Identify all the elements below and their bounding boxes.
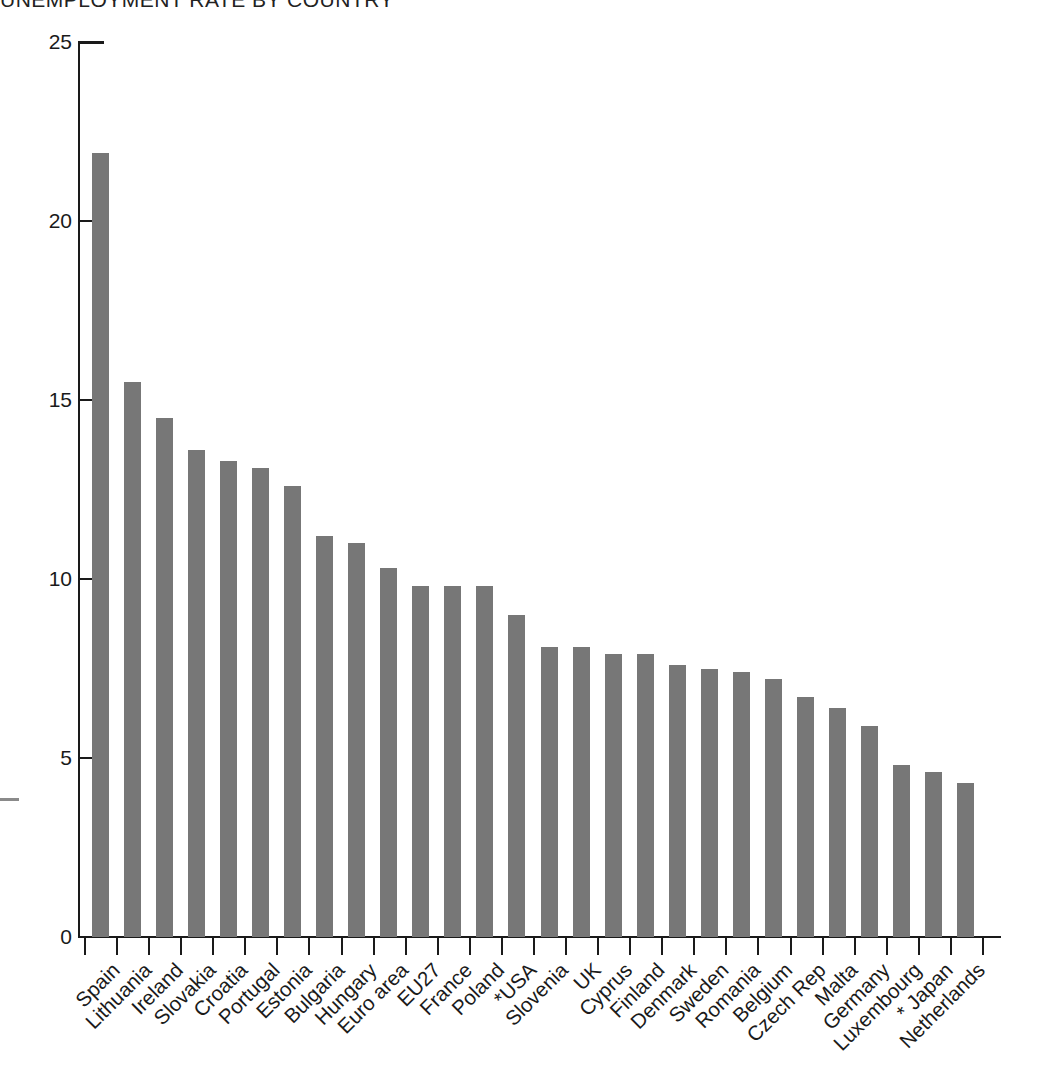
x-tick bbox=[469, 938, 471, 955]
bar bbox=[316, 536, 333, 937]
bar-chart: 0510152025 SpainLithuaniaIrelandSlovakia… bbox=[0, 0, 1046, 1090]
x-tick bbox=[244, 938, 246, 955]
x-tick bbox=[918, 938, 920, 955]
bar bbox=[669, 665, 686, 937]
x-tick bbox=[597, 938, 599, 955]
bar bbox=[829, 708, 846, 937]
bar bbox=[476, 586, 493, 937]
bar bbox=[893, 765, 910, 937]
y-tick-label-10: 10 bbox=[26, 568, 72, 589]
bar bbox=[605, 654, 622, 937]
x-tick bbox=[308, 938, 310, 955]
x-tick bbox=[950, 938, 952, 955]
x-tick bbox=[373, 938, 375, 955]
bar bbox=[156, 418, 173, 937]
x-tick bbox=[886, 938, 888, 955]
y-tick-label-20: 20 bbox=[26, 210, 72, 231]
bar bbox=[348, 543, 365, 937]
x-tick bbox=[84, 938, 86, 955]
x-tick bbox=[565, 938, 567, 955]
x-tick bbox=[501, 938, 503, 955]
x-tick bbox=[533, 938, 535, 955]
plot-area bbox=[78, 42, 1000, 937]
bar bbox=[412, 586, 429, 937]
bar bbox=[573, 647, 590, 937]
bar bbox=[925, 772, 942, 937]
x-tick bbox=[725, 938, 727, 955]
bar bbox=[508, 615, 525, 937]
bar bbox=[380, 568, 397, 937]
x-tick bbox=[757, 938, 759, 955]
bar bbox=[541, 647, 558, 937]
y-tick-label-5: 5 bbox=[26, 747, 72, 768]
bar bbox=[861, 726, 878, 937]
bar bbox=[957, 783, 974, 937]
x-tick bbox=[982, 938, 984, 955]
x-tick bbox=[437, 938, 439, 955]
x-tick bbox=[405, 938, 407, 955]
x-tick bbox=[116, 938, 118, 955]
y-tick-label-25: 25 bbox=[26, 31, 72, 52]
bar bbox=[220, 461, 237, 937]
bar bbox=[733, 672, 750, 937]
x-tick bbox=[212, 938, 214, 955]
bar bbox=[92, 153, 109, 937]
bar bbox=[284, 486, 301, 937]
x-tick bbox=[661, 938, 663, 955]
x-tick bbox=[854, 938, 856, 955]
y-tick-label-0: 0 bbox=[26, 926, 72, 947]
bar bbox=[444, 586, 461, 937]
x-tick bbox=[148, 938, 150, 955]
bar bbox=[252, 468, 269, 937]
x-tick bbox=[693, 938, 695, 955]
x-tick bbox=[790, 938, 792, 955]
x-tick bbox=[180, 938, 182, 955]
y-tick-label-15: 15 bbox=[26, 389, 72, 410]
x-tick bbox=[822, 938, 824, 955]
x-tick bbox=[629, 938, 631, 955]
bar bbox=[765, 679, 782, 937]
bar bbox=[188, 450, 205, 937]
x-tick bbox=[276, 938, 278, 955]
bar bbox=[637, 654, 654, 937]
bar-series bbox=[78, 42, 1000, 937]
bar bbox=[124, 382, 141, 937]
bar bbox=[797, 697, 814, 937]
x-tick bbox=[341, 938, 343, 955]
bar bbox=[701, 669, 718, 938]
